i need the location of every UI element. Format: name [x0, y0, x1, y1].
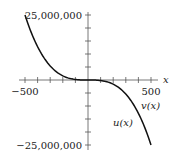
v-label: v(x) [141, 100, 160, 111]
x-max-label: 500 [141, 86, 160, 97]
y-max-label: 25,000,000 [25, 10, 82, 21]
cubic-function-chart: 25,000,000 −25,000,000 −500 500 x u(x) v… [0, 0, 175, 164]
u-label: u(x) [113, 117, 133, 128]
y-min-label: −25,000,000 [16, 140, 82, 151]
x-min-label: −500 [11, 86, 38, 97]
axes [19, 12, 158, 150]
x-axis-label: x [163, 74, 169, 85]
